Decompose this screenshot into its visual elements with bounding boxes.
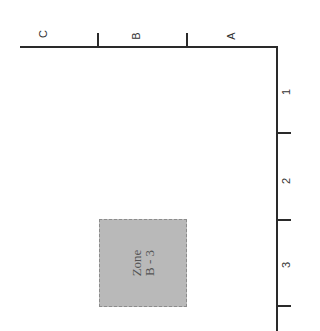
zone-label-line1: Zone [130, 250, 143, 277]
row-label-1: 1 [279, 85, 293, 99]
column-label-a: A [224, 29, 238, 43]
row-divider-tick [277, 132, 291, 134]
row-label-3: 3 [279, 258, 293, 272]
column-divider-tick [97, 33, 99, 47]
row-divider-tick [277, 305, 291, 307]
column-label-c: C [36, 27, 50, 41]
column-divider-tick [186, 33, 188, 47]
zone-label-line2: B - 3 [143, 250, 156, 277]
zone-label: Zone B - 3 [130, 250, 156, 277]
top-axis-line [20, 46, 278, 48]
column-label-b: B [129, 29, 143, 43]
right-axis-line [276, 46, 278, 331]
zone-b3-box: Zone B - 3 [99, 219, 187, 307]
row-label-2: 2 [279, 174, 293, 188]
row-divider-tick [277, 219, 291, 221]
